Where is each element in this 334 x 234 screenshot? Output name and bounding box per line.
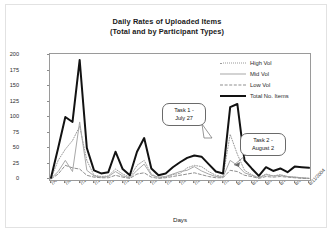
chart-title: Daily Rates of Uploaded Items (Total and… <box>6 17 328 37</box>
chart-title-line2: (Total and by Participant Types) <box>6 27 328 37</box>
chart-container: Daily Rates of Uploaded Items (Total and… <box>5 4 327 228</box>
y-tick-label-150: 150 <box>0 82 19 88</box>
chart-title-line1: Daily Rates of Uploaded Items <box>113 17 222 26</box>
y-tick-label-125: 125 <box>0 98 19 104</box>
legend-label-total: Total No. Items <box>250 93 289 99</box>
legend-item-mid-vol: Mid Vol <box>220 68 312 79</box>
annotation-task1-line2: July 27 <box>166 115 202 123</box>
legend-swatch-solid-icon <box>220 70 246 78</box>
legend-label-low-vol: Low Vol <box>250 82 270 88</box>
y-tick-label-100: 100 <box>0 113 19 119</box>
annotation-callout-task-1: Task 1 - July 27 <box>162 103 206 126</box>
annotation-task2-line1: Task 2 - <box>244 137 282 145</box>
annotation-task2-line2: August 2 <box>244 145 282 153</box>
legend-item-high-vol: High Vol <box>220 57 312 68</box>
legend-swatch-thick-icon <box>220 92 246 100</box>
legend-label-mid-vol: Mid Vol <box>250 71 269 77</box>
annotation-task1-line1: Task 1 - <box>166 107 202 115</box>
legend-item-total: Total No. Items <box>220 90 312 101</box>
y-tick-label-75: 75 <box>0 129 19 135</box>
y-tick-label-25: 25 <box>0 160 19 166</box>
y-tick-label-175: 175 <box>0 67 19 73</box>
legend-swatch-dashed-icon <box>220 81 246 89</box>
y-tick-label-200: 200 <box>0 51 19 57</box>
legend-item-low-vol: Low Vol <box>220 79 312 90</box>
x-axis-label: Days <box>49 216 311 223</box>
legend-swatch-dotted-icon <box>220 59 246 67</box>
y-tick-label-0: 0 <box>0 175 19 181</box>
legend-label-high-vol: High Vol <box>250 60 272 66</box>
y-tick-label-50: 50 <box>0 144 19 150</box>
annotation-callout-task-2: Task 2 - August 2 <box>240 133 286 156</box>
chart-legend: High Vol Mid Vol Low Vol Total No. Items <box>220 57 312 101</box>
